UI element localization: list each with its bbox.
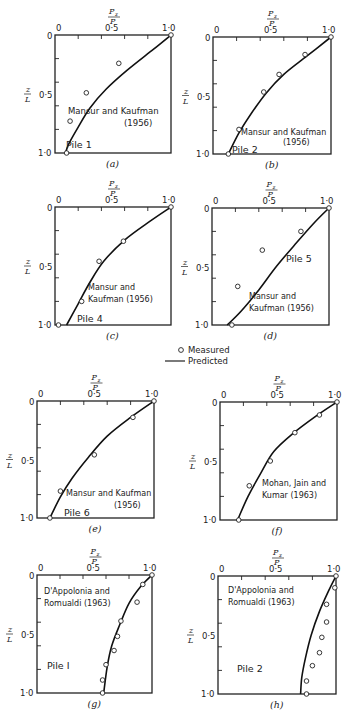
predicted-curve <box>301 576 336 694</box>
panel-caption: (h) <box>270 699 284 710</box>
measured-point <box>320 635 325 640</box>
annotation-source-line1: Mansur and <box>88 283 135 292</box>
svg-text:L: L <box>6 635 12 644</box>
svg-text:L: L <box>181 268 187 277</box>
y-tick-label: 1·0 <box>203 515 217 525</box>
y-tick-label: 0·5 <box>39 90 53 100</box>
measured-point <box>303 52 308 57</box>
svg-text:P: P <box>108 7 115 16</box>
measured-point <box>117 61 122 66</box>
svg-text:P: P <box>109 17 116 26</box>
y-tick-label: 1·0 <box>20 513 34 523</box>
y-axis-label: zL <box>24 257 31 276</box>
svg-text:P: P <box>268 19 275 28</box>
measured-point <box>334 574 339 579</box>
y-tick-label: 1·0 <box>20 688 34 698</box>
measured-point <box>335 400 340 405</box>
chart-panel-a: 00·51·000·51·0PzPzLMansur and Kaufman(19… <box>24 7 176 169</box>
measured-point <box>260 248 265 253</box>
chart-panel-h: 00·51·000·51·0PzPzLD'Appolonia andRomual… <box>187 548 341 710</box>
y-axis-label: zL <box>6 625 13 644</box>
y-tick-label: 0 <box>204 204 209 214</box>
svg-text:L: L <box>187 636 193 645</box>
panel-caption: (g) <box>88 698 102 709</box>
annotation-year: (1956) <box>124 118 152 128</box>
measured-point <box>247 483 252 488</box>
x-tick-label: 1·0 <box>162 23 176 33</box>
measured-point <box>261 90 266 95</box>
annotation-source: Mansur and Kaufman <box>66 489 151 498</box>
y-tick-label: 0 <box>212 398 217 408</box>
panel-caption: (f) <box>272 525 283 536</box>
svg-text:P: P <box>273 558 280 567</box>
chart-panel-e: 00·51·000·51·0PzPzLMansur and Kaufman(19… <box>6 373 159 534</box>
measured-point <box>131 415 136 420</box>
annotation-source: Mansur and Kaufman <box>241 128 326 137</box>
y-tick-label: 0 <box>205 33 210 43</box>
annotation-source: Mansur and Kaufman <box>68 106 159 116</box>
y-tick-label: 1·0 <box>195 320 209 330</box>
legend-predicted-label: Predicted <box>188 356 228 366</box>
x-tick-label: 0 <box>38 389 43 399</box>
measured-point <box>169 205 174 210</box>
annotation-source-line2: Kaufman (1956) <box>249 304 314 313</box>
measured-point <box>48 516 53 521</box>
annotation-source-line2: Romualdi (1963) <box>44 599 111 608</box>
y-tick-label: 0 <box>29 571 34 581</box>
measured-marker-icon <box>179 348 184 353</box>
y-axis-label: zL <box>182 87 189 106</box>
svg-text:P: P <box>90 547 97 556</box>
measured-point <box>304 679 309 684</box>
y-tick-label: 0·5 <box>21 456 35 466</box>
svg-text:P: P <box>266 180 273 189</box>
chart-panel-g: 00·51·000·51·0PzPzLD'Appolonia andRomual… <box>6 547 157 709</box>
measured-point <box>92 453 97 458</box>
plot-frame <box>55 207 171 325</box>
x-tick-label: 1·0 <box>143 563 157 573</box>
measured-point <box>230 323 235 328</box>
measured-point <box>58 489 63 494</box>
measured-point <box>150 573 155 578</box>
measured-point <box>317 413 322 418</box>
x-tick-label: 0 <box>56 195 61 205</box>
y-axis-label: zL <box>24 85 31 104</box>
y-tick-label: 1·0 <box>196 149 210 159</box>
svg-text:P: P <box>274 374 281 383</box>
measured-point <box>121 239 126 244</box>
y-tick-label: 0 <box>47 203 52 213</box>
measured-point <box>293 430 298 435</box>
annotation-pile: Pile 1 <box>66 139 92 150</box>
annotation-pile: Pile 5 <box>286 253 312 264</box>
legend-measured-label: Measured <box>188 345 230 355</box>
y-tick-label: 0·5 <box>21 630 35 640</box>
y-tick-label: 0·5 <box>202 631 216 641</box>
y-tick-label: 0 <box>29 397 34 407</box>
y-tick-label: 0 <box>47 31 52 41</box>
measured-point <box>310 663 315 668</box>
measured-point <box>119 619 124 624</box>
svg-text:z: z <box>7 625 13 634</box>
chart-panels: 00·51·000·51·0PzPzLMansur and Kaufman(19… <box>6 7 342 710</box>
y-tick-label: 0·5 <box>39 262 53 272</box>
measured-point <box>97 259 102 264</box>
y-tick-label: 0 <box>210 572 215 582</box>
svg-text:L: L <box>24 267 30 276</box>
y-axis-label: zL <box>181 258 188 277</box>
measured-point <box>304 692 309 697</box>
annotation-source-line1: D'Appolonia and <box>44 587 110 596</box>
predicted-curve <box>65 35 171 153</box>
svg-text:P: P <box>92 383 99 392</box>
measured-point <box>329 35 334 40</box>
measured-point <box>299 229 304 234</box>
svg-text:z: z <box>190 452 196 461</box>
svg-text:P: P <box>267 190 274 199</box>
measured-point <box>277 72 282 77</box>
panel-caption: (b) <box>265 159 279 170</box>
measured-point <box>169 33 174 38</box>
measured-point <box>327 206 332 211</box>
x-tick-label: 0 <box>219 564 224 574</box>
panel-caption: (a) <box>106 158 119 169</box>
svg-text:z: z <box>183 87 189 96</box>
y-tick-label: 1·0 <box>38 320 52 330</box>
svg-text:z: z <box>7 451 13 460</box>
